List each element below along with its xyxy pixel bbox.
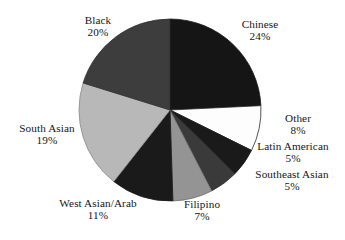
pie-label-other-value: 8% xyxy=(268,124,328,136)
pie-label-southeast-asian: Southeast Asian 5% xyxy=(240,168,344,192)
pie-label-latin-american-value: 5% xyxy=(243,152,343,164)
pie-label-black: Black 20% xyxy=(63,14,133,38)
pie-label-other: Other 8% xyxy=(268,112,328,136)
pie-label-south-asian: South Asian 19% xyxy=(6,122,88,146)
pie-label-black-name: Black xyxy=(63,14,133,26)
pie-label-other-name: Other xyxy=(268,112,328,124)
pie-chart-figure: Black 20% Chinese 24% Other 8% Latin Ame… xyxy=(0,0,345,240)
pie-label-south-asian-name: South Asian xyxy=(6,122,88,134)
pie-label-filipino: Filipino 7% xyxy=(166,198,238,222)
pie-label-chinese: Chinese 24% xyxy=(222,18,298,42)
pie-label-south-asian-value: 19% xyxy=(6,134,88,146)
pie-label-latin-american: Latin American 5% xyxy=(243,140,343,164)
pie-label-filipino-name: Filipino xyxy=(166,198,238,210)
pie-label-southeast-asian-name: Southeast Asian xyxy=(240,168,344,180)
pie-label-west-asian-arab: West Asian/Arab 11% xyxy=(45,197,151,221)
pie-label-chinese-name: Chinese xyxy=(222,18,298,30)
pie-label-chinese-value: 24% xyxy=(222,30,298,42)
pie-label-latin-american-name: Latin American xyxy=(243,140,343,152)
pie-label-black-value: 20% xyxy=(63,26,133,38)
pie-slice-group xyxy=(79,19,261,201)
pie-label-west-asian-arab-name: West Asian/Arab xyxy=(45,197,151,209)
pie-label-filipino-value: 7% xyxy=(166,210,238,222)
pie-label-southeast-asian-value: 5% xyxy=(240,180,344,192)
pie-label-west-asian-arab-value: 11% xyxy=(45,209,151,221)
